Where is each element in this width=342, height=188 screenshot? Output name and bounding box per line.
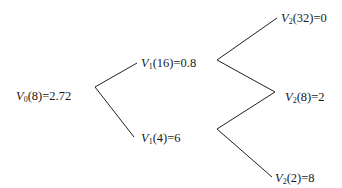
node-value: =0 [313,11,326,25]
node-value: =8 [301,171,314,185]
node-value: =6 [167,131,180,145]
edge-v1-up-v2-uu [217,18,277,60]
node-arg: (32) [293,11,314,25]
node-v0: V0(8)=2.72 [16,89,71,103]
node-symbol: V [285,90,293,104]
node-v2-dd: V2(2)=8 [275,171,315,185]
node-arg: (8) [297,90,312,104]
node-symbol: V [281,11,289,25]
node-v2-uu: V2(32)=0 [281,11,327,25]
edge-v0-v1-up [95,63,137,87]
node-value: =0.8 [173,56,196,70]
node-symbol: V [141,131,149,145]
node-v2-ud: V2(8)=2 [285,90,325,104]
node-symbol: V [275,171,283,185]
node-symbol: V [16,89,24,103]
node-value: =2.72 [42,89,71,103]
node-v1-down: V1(4)=6 [141,131,181,145]
node-arg: (16) [153,56,174,70]
edge-v1-up-v2-ud [217,60,275,92]
node-value: =2 [311,90,324,104]
node-arg: (2) [287,171,302,185]
edge-v0-v1-down [95,87,134,137]
edge-v1-down-v2-ud [217,92,275,129]
node-arg: (4) [153,131,168,145]
node-arg: (8) [28,89,43,103]
edge-v1-down-v2-dd [217,129,272,177]
node-symbol: V [141,56,149,70]
node-v1-up: V1(16)=0.8 [141,56,196,70]
